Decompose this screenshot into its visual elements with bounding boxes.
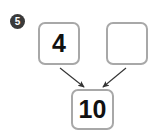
worksheet-problem: 5 4 10 [0, 0, 160, 140]
arrow-left-to-sum-icon [60, 68, 84, 87]
addend-box-left[interactable]: 4 [38, 22, 80, 65]
arrow-right-to-sum-icon [103, 68, 126, 87]
addend-box-right-empty[interactable] [106, 22, 148, 65]
sum-box[interactable]: 10 [71, 89, 114, 130]
problem-number-badge: 5 [10, 14, 25, 29]
